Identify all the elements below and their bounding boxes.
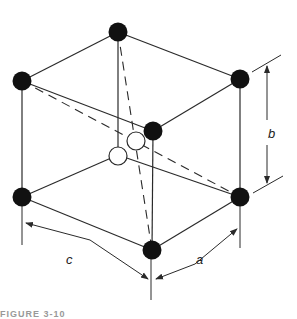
- dimension-b: [252, 55, 283, 193]
- interior-atom-upper: [127, 132, 145, 150]
- label-c: c: [66, 252, 73, 267]
- label-b: b: [268, 126, 275, 141]
- corner-atom-bottom-right: [231, 188, 250, 207]
- label-a: a: [196, 252, 203, 267]
- top-face-edges: [22, 32, 240, 131]
- figure-caption: FIGURE 3-10: [0, 309, 66, 319]
- bottom-face-edges: [22, 155, 240, 250]
- dimension-c-a: [22, 205, 240, 300]
- corner-atom-top-back: [109, 23, 128, 42]
- corner-atom-top-left: [13, 72, 32, 91]
- corner-atom-bottom-front: [143, 241, 162, 260]
- interior-atom-lower: [109, 147, 127, 165]
- corner-atom-top-front: [144, 122, 163, 141]
- corner-atom-top-right: [231, 70, 250, 89]
- corner-atom-bottom-left: [13, 188, 32, 207]
